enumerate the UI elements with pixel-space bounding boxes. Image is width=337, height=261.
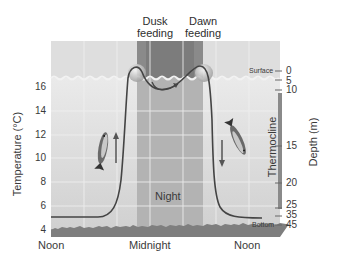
temp-tick: 16: [32, 81, 46, 92]
dawn-label-line1: Dawn: [178, 15, 228, 27]
temp-tick: 10: [32, 152, 46, 163]
x-tick-midnight: Midnight: [129, 239, 171, 251]
thermocline-label: Thermocline: [266, 107, 278, 187]
dusk-feeding-label: Dusk feeding: [130, 15, 180, 39]
night-label: Night: [155, 190, 181, 202]
temp-tick: 12: [32, 129, 46, 140]
depth-axis-title: Depth (m): [307, 112, 319, 172]
temp-tick: 14: [32, 105, 46, 116]
dawn-label-line2: feeding: [178, 27, 228, 39]
x-tick-noon-end: Noon: [234, 239, 260, 251]
dawn-feeding-label: Dawn feeding: [178, 15, 228, 39]
temperature-axis-title: Temperature (°C): [11, 104, 23, 204]
x-tick-noon-start: Noon: [38, 239, 64, 251]
dusk-label-line2: feeding: [130, 27, 180, 39]
temp-tick: 8: [32, 176, 46, 187]
depth-tick: 10: [286, 84, 297, 95]
dusk-label-line1: Dusk: [130, 15, 180, 27]
surface-label: Surface: [249, 67, 273, 74]
depth-tick: 15: [286, 140, 297, 151]
bottom-label: Bottom: [252, 221, 274, 228]
depth-tick: 20: [286, 177, 297, 188]
temp-tick: 6: [32, 200, 46, 211]
thermocline-bar: [278, 93, 282, 209]
temp-tick: 4: [32, 224, 46, 235]
depth-tick: 45: [286, 219, 297, 230]
